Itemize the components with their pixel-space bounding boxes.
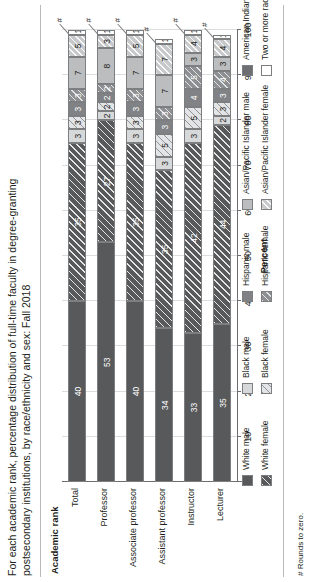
bar-segment: 53 (97, 242, 115, 482)
legend-label: Hispanic male (241, 233, 251, 286)
legend-label: Black male (241, 336, 251, 378)
bar-segment: 3 (126, 129, 144, 143)
bar-segment: 3 (97, 35, 115, 49)
chart-title: For each academic rank, percentage distr… (6, 136, 33, 576)
bar-segment: 7 (68, 57, 86, 89)
bar-segment: 2 (213, 116, 231, 125)
legend-swatch (242, 383, 253, 394)
bar-segment: 3 (155, 157, 173, 171)
rounds-to-zero-marker: # (171, 18, 180, 22)
x-axis-line (237, 30, 238, 482)
bar-segment: 3 (155, 120, 173, 134)
bar-row: Instructor3342354534#1 (184, 30, 202, 482)
bar-segment: 3 (213, 102, 231, 116)
bar-segment: 4 (213, 39, 231, 57)
rounds-to-zero-marker: # (84, 18, 93, 22)
bar-segment: 1 (68, 30, 86, 35)
figure-frame: For each academic rank, percentage distr… (0, 0, 318, 582)
bar-segment: 3 (184, 53, 202, 67)
legend-label: White female (260, 420, 270, 470)
bar-segment: 3 (126, 102, 144, 116)
bar-segment: 3 (184, 129, 202, 143)
plot-area: 0102030405060708090100 Total4035333375#1… (62, 30, 237, 482)
bar-row: Total4035333375#1 (68, 30, 86, 482)
footnote: # Rounds to zero. (296, 513, 305, 576)
legend-swatch (261, 65, 272, 76)
legend-swatch (261, 475, 272, 486)
bar-segment: 42 (184, 143, 202, 333)
legend-swatch (242, 475, 253, 486)
category-label: Instructor (186, 488, 196, 526)
gridline (62, 119, 237, 120)
bar-segment: 3 (68, 102, 86, 116)
bar-segment: 33 (184, 333, 202, 482)
bar-segment: 1 (213, 35, 231, 40)
legend-label: White male (241, 427, 251, 470)
legend-swatch (261, 199, 272, 210)
bar-row: Associate professor4035333375#1 (126, 30, 144, 482)
bar-segment: 3 (213, 89, 231, 103)
gridline (62, 74, 237, 75)
chart-legend: White maleWhite femaleBlack maleBlack fe… (240, 16, 280, 486)
gridline (62, 436, 237, 437)
bar-segment: 2 (97, 84, 115, 93)
gridline (62, 210, 237, 211)
legend-label: Hispanic female (260, 226, 270, 286)
bar-segment: 5 (68, 35, 86, 58)
gridline (62, 391, 237, 392)
bar-segment: 2 (97, 93, 115, 102)
rounds-to-zero-marker: # (142, 27, 151, 31)
bar-segment: 40 (68, 301, 86, 482)
category-label: Assistant professor (157, 488, 167, 565)
bar-segment: 4 (184, 89, 202, 107)
bar-segment: 5 (155, 134, 173, 157)
bar-segment: 27 (97, 120, 115, 242)
bar-segment: 5 (126, 35, 144, 58)
bar-segment: 34 (155, 328, 173, 482)
legend-label: Two or more races (260, 0, 270, 60)
bar-segment: 3 (68, 129, 86, 143)
bar-row: Lecturer3544233434#1 (213, 30, 231, 482)
rounds-to-zero-marker: # (113, 18, 122, 22)
gridline (62, 165, 237, 166)
bar-segment: 7 (155, 75, 173, 107)
bar-segment: 35 (155, 170, 173, 328)
bar-segment: 4 (184, 35, 202, 53)
bar-segment: 7 (155, 44, 173, 76)
title-divider (40, 5, 41, 577)
bar-segment: 7 (126, 57, 144, 89)
bar-segment: 44 (213, 125, 231, 324)
rounds-to-zero-marker: # (55, 18, 64, 22)
legend-swatch (242, 199, 253, 210)
bar-segment: 40 (126, 301, 144, 482)
legend-label: Black female (260, 329, 270, 378)
category-label: Professor (99, 488, 109, 527)
bar-segment: 1 (155, 39, 173, 44)
bar-segment: 4 (213, 71, 231, 89)
bar-segment: 1 (184, 30, 202, 35)
legend-swatch (261, 383, 272, 394)
legend-label: Asian/Pacific Islander male (241, 92, 251, 194)
category-label: Associate professor (128, 488, 138, 567)
bar-segment: 35 (213, 324, 231, 482)
stacked-bar-chart: For each academic rank, percentage distr… (0, 0, 318, 582)
rounds-to-zero-marker: # (200, 23, 209, 27)
gridline (62, 345, 237, 346)
bar-segment: 35 (126, 143, 144, 301)
bar-row: Professor5327222283#1 (97, 30, 115, 482)
bar-segment: 3 (68, 89, 86, 103)
legend-divider (283, 5, 284, 577)
bar-segment: 3 (213, 57, 231, 71)
legend-label: American Indian/Alaska Native (241, 0, 251, 60)
bar-segment: 3 (68, 116, 86, 130)
bar-segment: 1 (97, 30, 115, 35)
category-label: Lecturer (215, 488, 225, 521)
bar-segment: 2 (97, 102, 115, 111)
category-label: Total (70, 488, 80, 507)
bar-segment: 35 (68, 143, 86, 301)
bar-segment: 2 (97, 111, 115, 120)
legend-swatch (261, 291, 272, 302)
bar-row: Assistant professor3435353377#1 (155, 30, 173, 482)
bar-segment: 3 (126, 89, 144, 103)
gridline (62, 255, 237, 256)
